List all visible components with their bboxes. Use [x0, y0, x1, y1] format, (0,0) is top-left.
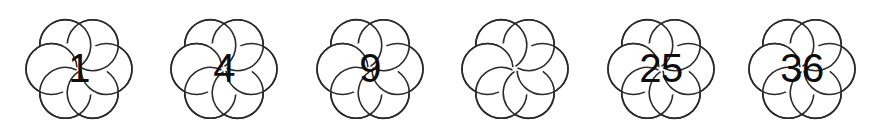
flower-number: 9 — [314, 14, 426, 124]
flower-5: 25 — [605, 14, 717, 124]
flower-number: 36 — [746, 14, 858, 124]
flower-sequence-strip: 1492536 — [0, 0, 880, 137]
flower-6: 36 — [746, 14, 858, 124]
flower-number: 25 — [605, 14, 717, 124]
flower-number: 1 — [23, 14, 135, 124]
flower-4[interactable] — [459, 14, 571, 124]
flower-3: 9 — [314, 14, 426, 124]
flower-number: 4 — [168, 14, 280, 124]
flower-2: 4 — [168, 14, 280, 124]
flower-1: 1 — [23, 14, 135, 124]
flower-answer-blank[interactable] — [459, 14, 571, 124]
